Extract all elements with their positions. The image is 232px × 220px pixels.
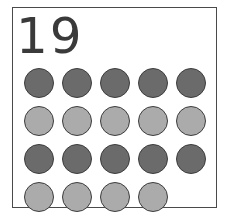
counting-dot-light bbox=[100, 182, 130, 212]
counting-dot-dark bbox=[62, 144, 92, 174]
counting-dot-dark bbox=[176, 68, 206, 98]
number-label: 19 bbox=[16, 8, 84, 64]
counting-dot-light bbox=[138, 106, 168, 136]
counting-dot-light bbox=[62, 182, 92, 212]
counting-dot-dark bbox=[24, 68, 54, 98]
counting-dot-dark bbox=[24, 144, 54, 174]
counting-dot-light bbox=[138, 182, 168, 212]
counting-dot-dark bbox=[100, 68, 130, 98]
counting-dot-dark bbox=[138, 144, 168, 174]
counting-dot-light bbox=[62, 106, 92, 136]
counting-dot-dark bbox=[100, 144, 130, 174]
counting-dot-dark bbox=[62, 68, 92, 98]
counting-dot-dark bbox=[176, 144, 206, 174]
counting-dot-light bbox=[100, 106, 130, 136]
counting-dot-light bbox=[24, 182, 54, 212]
counting-dot-light bbox=[24, 106, 54, 136]
counting-dot-light bbox=[176, 106, 206, 136]
counting-dot-dark bbox=[138, 68, 168, 98]
